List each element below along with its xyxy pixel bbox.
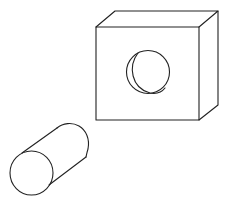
block-top-face <box>96 11 218 27</box>
block-front-face <box>96 27 199 120</box>
peg <box>10 124 89 195</box>
block-hole-inner-edge <box>132 53 165 93</box>
peg-front-end <box>10 151 53 195</box>
block-right-face <box>199 11 218 120</box>
peg-upper-edge <box>22 128 57 153</box>
peg-back-end <box>57 124 89 157</box>
diagram-canvas: Cylindrical peg beside a rectangular blo… <box>0 0 229 212</box>
block <box>96 11 218 120</box>
peg-lower-edge <box>49 157 86 185</box>
